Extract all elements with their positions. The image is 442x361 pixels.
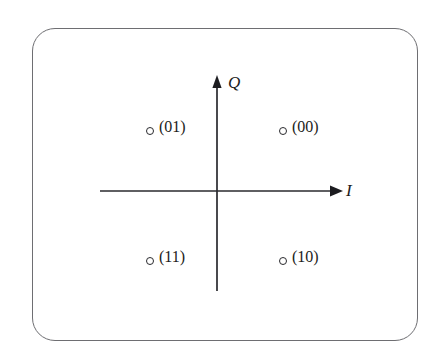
constellation-point-label: (00) — [292, 119, 319, 135]
q-axis-arrowhead — [212, 75, 221, 88]
constellation-point-label: (01) — [159, 119, 186, 135]
circle-marker-icon — [146, 127, 154, 135]
constellation-diagram: Q I (01) (00) (11) (10) — [0, 0, 442, 361]
i-axis-arrowhead — [330, 186, 343, 197]
circle-marker-icon — [279, 257, 287, 265]
circle-marker-icon — [279, 127, 287, 135]
circle-marker-icon — [146, 257, 154, 265]
axes-layer — [0, 0, 442, 361]
constellation-point-label: (10) — [292, 249, 319, 265]
quadrature-axis-label: Q — [228, 74, 240, 91]
in-phase-axis-label: I — [346, 182, 352, 199]
constellation-point-label: (11) — [159, 249, 185, 265]
